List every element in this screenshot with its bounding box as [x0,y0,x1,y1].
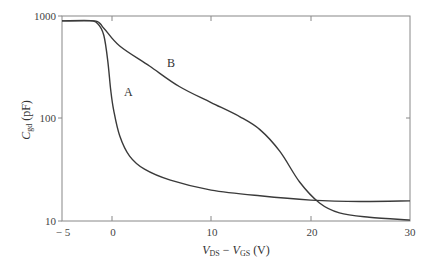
y-axis-label: Cgd (pF) [19,100,34,140]
curve-b [62,20,410,220]
y-tick-1000: 1000 [34,10,57,22]
x-tick-30: 30 [405,226,417,238]
x-tick-10: 10 [207,226,219,238]
curve-a [62,21,410,202]
y-tick-100: 100 [40,112,57,124]
y-tick-10: 10 [45,215,57,227]
x-axis-ticks [58,16,410,221]
chart-svg: 1000 100 10 − 5 0 10 20 30 VDS − VGS (V)… [0,0,432,269]
x-axis-label: VDS − VGS (V) [202,243,270,258]
x-tick-0: 0 [110,226,116,238]
x-tick-20: 20 [307,226,319,238]
series-label-a: A [124,85,133,99]
series-label-b: B [167,56,175,70]
x-tick-minus5: − 5 [56,226,71,238]
plot-frame [62,16,410,221]
